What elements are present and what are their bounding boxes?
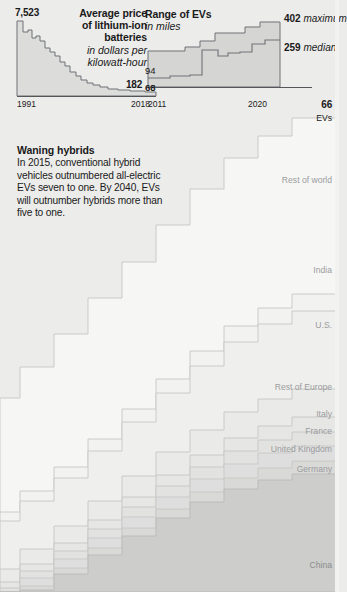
narrative-body: In 2015, conventional hybrid vehicles ou… — [17, 157, 169, 220]
narrative-heading: Waning hybrids — [17, 144, 169, 156]
right-page-margin — [335, 0, 339, 592]
battery-subtitle-line2: kilowatt-hour — [58, 56, 147, 68]
band-label-france: France — [305, 426, 332, 436]
range-max-value: 402 — [284, 13, 301, 24]
battery-axis-start: 1991 — [17, 99, 36, 109]
battery-title-line1: Average price — [58, 7, 147, 19]
battery-title-line3: batteries — [58, 31, 147, 43]
battery-title-line2: of lithium-ion — [58, 19, 147, 31]
range-low-lower: 68 — [145, 82, 156, 93]
narrative-block: Waning hybrids In 2015, conventional hyb… — [17, 144, 169, 220]
band-label-china: China — [310, 560, 333, 570]
range-title-block: Range of EVs in miles — [145, 8, 211, 32]
battery-subtitle-line1: in dollars per — [58, 44, 147, 56]
band-label-united-kingdom: United Kingdom — [271, 444, 332, 454]
range-median-value: 259 — [284, 42, 301, 53]
battery-title-block: Average price of lithium-ion batteries i… — [58, 7, 147, 68]
range-max-caption: maximum — [303, 13, 346, 24]
range-title: Range of EVs — [145, 8, 211, 20]
band-label-germany: Germany — [297, 464, 333, 474]
band-label-rest-of-world: Rest of world — [282, 175, 332, 185]
range-median-caption: median — [303, 42, 336, 53]
band-label-india: India — [313, 265, 332, 275]
total-evs-caption: EVs — [316, 113, 332, 123]
range-axis-end: 2020 — [248, 99, 267, 109]
band-label-italy: Italy — [316, 409, 332, 419]
range-low-upper: 94 — [145, 65, 156, 76]
range-axis-start: 2011 — [148, 99, 166, 109]
battery-start-value: 7,523 — [15, 7, 39, 18]
range-median-annotation: 259 median — [284, 42, 336, 53]
range-subtitle: in miles — [145, 20, 211, 32]
band-label-rest-of-europe: Rest of Europe — [275, 382, 333, 392]
band-label-us: U.S. — [315, 320, 332, 330]
